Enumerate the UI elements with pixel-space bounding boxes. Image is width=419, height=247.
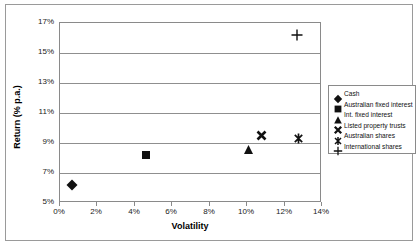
asterisk-marker-icon (292, 132, 305, 145)
x-tick-mark-10 (246, 202, 247, 206)
data-point-australian-shares (292, 132, 305, 145)
legend-label-int-fixed-interest: Int. fixed interest (344, 110, 392, 121)
square-marker-icon (140, 149, 152, 161)
scatter-chart-risk-return: Return (% p.a.) 17% 15% 13% 11% 9% 7% 5%… (0, 0, 419, 247)
legend-label-cash: Cash (344, 89, 359, 100)
x-tick-label-12: 12% (269, 208, 299, 216)
y-tick-label-17: 17% (6, 18, 54, 26)
data-point-australian-fixed-interest (140, 149, 152, 161)
x-tick-label-10: 10% (231, 208, 261, 216)
x-axis-title: Volatility (59, 221, 321, 231)
gridline-11 (60, 113, 320, 114)
triangle-marker-icon (242, 143, 255, 156)
gridline-9 (60, 143, 320, 144)
plus-marker-icon (290, 28, 304, 42)
x-tick-label-8: 8% (194, 208, 224, 216)
x-tick-mark-2 (96, 202, 97, 206)
chart-outer-frame: Return (% p.a.) 17% 15% 13% 11% 9% 7% 5%… (5, 4, 413, 241)
y-tick-label-5: 5% (6, 198, 54, 206)
gridline-15 (60, 53, 320, 54)
legend-label-international-shares: International shares (344, 142, 402, 153)
legend-item-int-fixed-interest: Int. fixed interest (332, 110, 413, 121)
legend-label-listed-property-trusts: Listed property trusts (344, 121, 406, 132)
y-tick-label-15: 15% (6, 48, 54, 56)
x-tick-mark-6 (171, 202, 172, 206)
y-tick-label-13: 13% (6, 78, 54, 86)
x-tick-label-4: 4% (119, 208, 149, 216)
y-tick-label-7: 7% (6, 168, 54, 176)
legend-item-australian-shares: Australian shares (332, 131, 413, 142)
legend-label-australian-fixed-interest: Australian fixed interest (344, 100, 413, 111)
plus-marker-icon (332, 142, 344, 153)
x-cross-marker-icon (255, 129, 268, 142)
data-point-listed-property-trusts (255, 129, 268, 142)
y-tick-label-9: 9% (6, 138, 54, 146)
legend-item-international-shares: International shares (332, 142, 413, 153)
asterisk-marker-icon (332, 131, 344, 142)
x-tick-mark-8 (209, 202, 210, 206)
y-axis-title: Return (% p.a.) (12, 0, 22, 67)
data-point-cash (65, 178, 79, 192)
legend-item-listed-property-trusts: Listed property trusts (332, 121, 413, 132)
data-point-int-fixed-interest (242, 143, 255, 156)
diamond-marker-icon (332, 89, 344, 100)
data-point-international-shares (290, 28, 304, 42)
legend-item-cash: Cash (332, 89, 413, 100)
diamond-marker-icon (65, 178, 79, 192)
x-tick-label-2: 2% (81, 208, 111, 216)
x-tick-mark-4 (134, 202, 135, 206)
x-tick-label-14: 14% (306, 208, 336, 216)
x-tick-mark-12 (284, 202, 285, 206)
square-marker-icon (332, 100, 344, 111)
x-tick-mark-14 (321, 202, 322, 206)
x-cross-marker-icon (332, 121, 344, 132)
x-tick-label-6: 6% (156, 208, 186, 216)
gridline-7 (60, 173, 320, 174)
y-tick-label-11: 11% (6, 108, 54, 116)
x-tick-label-0: 0% (44, 208, 74, 216)
legend-label-australian-shares: Australian shares (344, 131, 395, 142)
chart-legend: Cash Australian fixed interest Int. fixe… (328, 85, 416, 154)
plot-area (59, 22, 321, 202)
x-tick-mark-0 (59, 202, 60, 206)
legend-item-australian-fixed-interest: Australian fixed interest (332, 100, 413, 111)
triangle-marker-icon (332, 110, 344, 121)
gridline-13 (60, 83, 320, 84)
